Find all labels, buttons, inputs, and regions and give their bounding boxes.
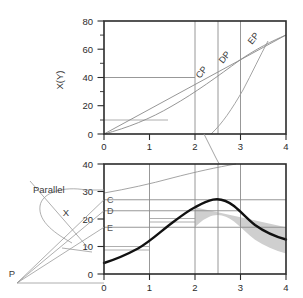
level-label-e: E <box>107 223 113 233</box>
lower-ytick-label-0: 0 <box>88 269 93 280</box>
annotation-label-p: P <box>9 268 15 279</box>
lower-xtick-label-2: 2 <box>192 282 197 293</box>
lower-xtick-label-1: 1 <box>147 282 152 293</box>
lower-x-ticks <box>104 274 286 280</box>
upper-xtick-label-4: 4 <box>283 141 288 152</box>
lower-plot: 40 30 20 10 0 C D E 0 1 2 3 4 <box>82 159 288 294</box>
upper-ytick-label-20: 20 <box>82 100 93 111</box>
upper-x-ticks <box>104 134 286 140</box>
lower-xtick-label-4: 4 <box>283 282 288 293</box>
annotation-label-x: X <box>63 207 70 218</box>
lower-xtick-label-0: 0 <box>101 282 106 293</box>
upper-xtick-label-1: 1 <box>147 141 152 152</box>
upper-plot: 80 60 40 20 0 X(Y) 0 1 2 3 4 CP DP EP <box>54 16 289 153</box>
upper-xtick-label-0: 0 <box>101 141 106 152</box>
upper-y-ticks <box>98 21 105 134</box>
level-label-d: D <box>107 206 114 216</box>
upper-ytick-label-60: 60 <box>82 44 93 55</box>
annotation-label-parallel: Parallel <box>33 184 65 195</box>
lower-y-ticks <box>98 164 105 274</box>
level-label-c: C <box>107 195 114 205</box>
upper-xtick-label-2: 2 <box>192 141 197 152</box>
upper-xtick-label-3: 3 <box>238 141 243 152</box>
lower-ytick-label-30: 30 <box>82 186 93 197</box>
lower-xtick-label-3: 3 <box>238 282 243 293</box>
upper-ytick-label-0: 0 <box>88 129 93 140</box>
upper-ytick-label-40: 40 <box>82 72 93 83</box>
lower-ytick-label-40: 40 <box>82 159 93 170</box>
upper-plot-y-axis-title: X(Y) <box>54 71 65 90</box>
figure-root: 80 60 40 20 0 X(Y) 0 1 2 3 4 CP DP EP <box>0 0 303 298</box>
upper-ytick-label-80: 80 <box>82 16 93 27</box>
